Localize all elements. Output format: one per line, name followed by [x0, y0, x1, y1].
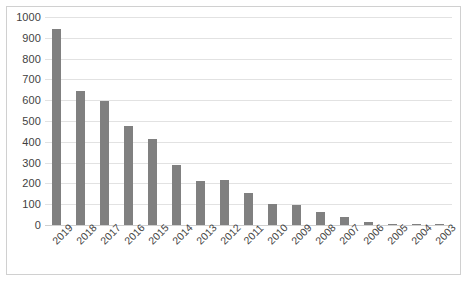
- x-slot: 2012: [213, 225, 237, 269]
- y-tick-label: 600: [22, 94, 41, 106]
- bar[interactable]: [172, 165, 181, 225]
- bar-slot: [428, 17, 452, 225]
- bar-slot: [189, 17, 213, 225]
- x-slot: 2005: [380, 225, 404, 269]
- bar-slot: [213, 17, 237, 225]
- bar[interactable]: [100, 101, 109, 225]
- x-slot: 2007: [332, 225, 356, 269]
- bar-slot: [308, 17, 332, 225]
- plot-area: [45, 17, 452, 225]
- bar[interactable]: [244, 193, 253, 225]
- bar[interactable]: [148, 139, 157, 225]
- bar-slot: [404, 17, 428, 225]
- bar[interactable]: [52, 29, 61, 225]
- bar-slot: [284, 17, 308, 225]
- bar-slot: [332, 17, 356, 225]
- y-tick-label: 300: [22, 157, 41, 169]
- x-slot: 2006: [356, 225, 380, 269]
- x-slot: 2019: [45, 225, 69, 269]
- bar[interactable]: [292, 205, 301, 225]
- bar-slot: [165, 17, 189, 225]
- x-slot: 2008: [308, 225, 332, 269]
- bar-slot: [260, 17, 284, 225]
- bar[interactable]: [268, 204, 277, 225]
- bar-slot: [141, 17, 165, 225]
- y-tick-label: 800: [22, 53, 41, 65]
- y-tick-label: 400: [22, 136, 41, 148]
- x-slot: 2010: [260, 225, 284, 269]
- x-slot: 2014: [165, 225, 189, 269]
- y-tick-label: 0: [35, 219, 41, 231]
- y-tick-label: 1000: [16, 11, 41, 23]
- bar[interactable]: [76, 91, 85, 225]
- y-tick-label: 700: [22, 73, 41, 85]
- bar-slot: [380, 17, 404, 225]
- bar-slot: [237, 17, 261, 225]
- chart-frame: 10009008007006005004003002001000 2019201…: [6, 6, 461, 275]
- bar[interactable]: [124, 126, 133, 225]
- x-slot: 2016: [117, 225, 141, 269]
- x-slot: 2011: [237, 225, 261, 269]
- bar-slot: [117, 17, 141, 225]
- x-slot: 2015: [141, 225, 165, 269]
- y-tick-label: 100: [22, 198, 41, 210]
- y-tick-label: 500: [22, 115, 41, 127]
- x-slot: 2018: [69, 225, 93, 269]
- bar-slot: [69, 17, 93, 225]
- x-slot: 2009: [284, 225, 308, 269]
- bar-slot: [356, 17, 380, 225]
- y-axis: 10009008007006005004003002001000: [7, 7, 45, 274]
- x-tick-label: 2003: [433, 221, 458, 246]
- bar-slot: [93, 17, 117, 225]
- bar[interactable]: [340, 217, 349, 225]
- y-tick-label: 200: [22, 177, 41, 189]
- bar[interactable]: [316, 212, 325, 225]
- bar-series: [45, 17, 452, 225]
- x-slot: 2017: [93, 225, 117, 269]
- x-slot: 2003: [428, 225, 452, 269]
- bar[interactable]: [220, 180, 229, 225]
- bar[interactable]: [196, 181, 205, 225]
- x-slot: 2004: [404, 225, 428, 269]
- x-slot: 2013: [189, 225, 213, 269]
- bar-slot: [45, 17, 69, 225]
- chart-plot-wrapper: 10009008007006005004003002001000 2019201…: [7, 7, 460, 274]
- x-axis: 2019201820172016201520142013201220112010…: [45, 225, 452, 269]
- y-tick-label: 900: [22, 32, 41, 44]
